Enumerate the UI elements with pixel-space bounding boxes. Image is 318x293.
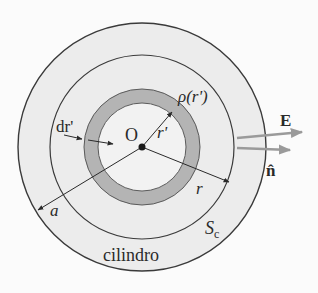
dr-prime-label: dr': [56, 117, 73, 136]
normal-label: n̂: [266, 161, 276, 180]
diagram-canvas: O r' ρ(r') dr' r a Sc cilindro E n̂: [0, 0, 318, 293]
a-label: a: [50, 201, 59, 220]
origin-point: [139, 144, 146, 151]
r-label: r: [196, 179, 203, 198]
surface-label-sub: c: [214, 227, 219, 241]
e-field-label: E: [280, 111, 291, 130]
cylinder-label: cilindro: [103, 245, 159, 265]
origin-label: O: [125, 125, 138, 145]
rho-label: ρ(r'): [177, 87, 208, 106]
surface-label-main: S: [205, 218, 214, 238]
r-prime-label: r': [157, 123, 168, 142]
